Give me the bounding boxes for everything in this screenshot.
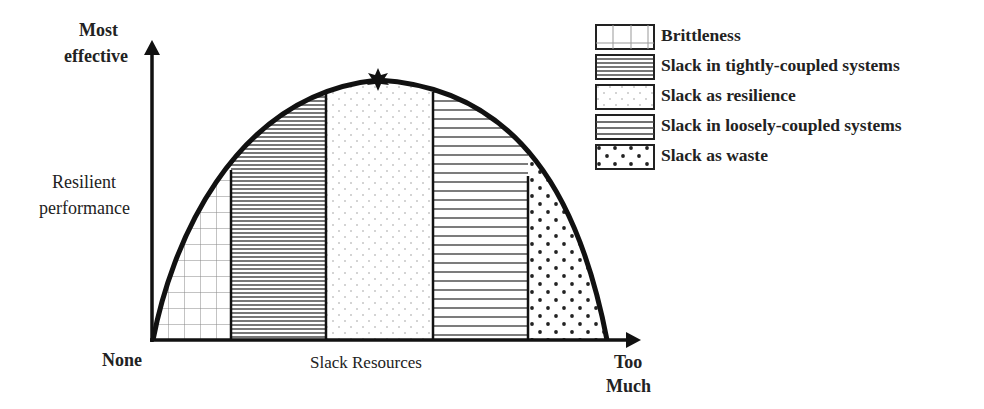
x-axis-left-label: None [102,350,142,371]
region-tightly-coupled [231,60,326,340]
large-dots-swatch-icon [595,144,655,170]
legend-label: Slack as resilience [661,85,796,106]
y-axis-title-1: Resilient [52,172,116,193]
region-loosely-coupled [433,60,528,340]
x-axis-title: Slack Resources [310,353,422,373]
legend-label: Slack in tightly-coupled systems [661,55,900,76]
y-axis-top-label-1: Most [79,20,118,41]
fine-dots-swatch-icon [595,84,655,110]
sparse-lines-swatch-icon [595,114,655,140]
region-resilience [326,60,433,340]
y-axis [144,40,160,342]
dense-lines-swatch-icon [595,54,655,80]
x-axis-right-label-1: Too [614,352,642,373]
grid-pattern-swatch-icon [595,24,655,50]
legend-label: Slack as waste [661,145,768,166]
y-axis-top-label-2: effective [64,46,128,67]
legend-label: Slack in loosely-coupled systems [661,115,902,136]
y-axis-title-2: performance [39,198,130,219]
legend-label: Brittleness [661,25,741,46]
x-axis-right-label-2: Much [606,376,651,397]
